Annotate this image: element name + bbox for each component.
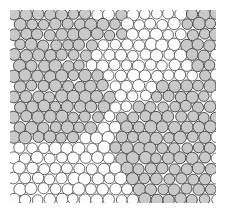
disc-packing-plot	[0, 0, 230, 217]
packing-figure	[0, 0, 230, 217]
